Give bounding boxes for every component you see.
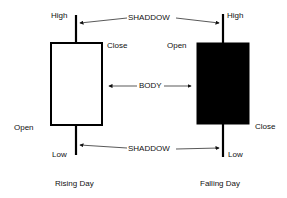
- falling-low-label: Low: [228, 150, 243, 160]
- rising-low-label: Low: [52, 150, 67, 160]
- rising-candle: [51, 15, 102, 155]
- body-label: BODY: [139, 81, 162, 91]
- rising-close-label: Close: [107, 41, 127, 51]
- falling-high-label: High: [227, 11, 243, 21]
- shadow-top-label: SHADDOW: [128, 13, 170, 23]
- falling-open-label: Open: [167, 41, 187, 51]
- shadow-bottom-label: SHADDOW: [128, 144, 170, 154]
- rising-caption: Rising Day: [55, 179, 94, 189]
- rising-open-label: Open: [14, 123, 34, 133]
- falling-caption: Falling Day: [200, 179, 240, 189]
- falling-close-label: Close: [255, 122, 275, 132]
- rising-high-label: High: [51, 11, 67, 21]
- falling-candle: [197, 14, 249, 157]
- candlestick-diagram: [0, 0, 287, 198]
